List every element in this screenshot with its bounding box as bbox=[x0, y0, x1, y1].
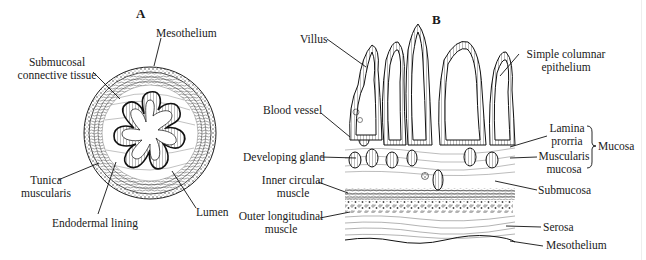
label-mesothelium-a: Mesothelium bbox=[156, 27, 217, 40]
panel-a-gut-cross-section bbox=[84, 67, 216, 199]
label-inner-circular-muscle: Inner circular muscle bbox=[260, 174, 326, 200]
label-developing-gland: Developing gland bbox=[243, 151, 325, 164]
label-line-2: connective tissue bbox=[16, 69, 98, 82]
panel-label-a: A bbox=[136, 6, 145, 22]
panel-b-intestinal-wall bbox=[345, 24, 515, 243]
label-submucosal-connective-tissue: Submucosal connective tissue bbox=[16, 56, 98, 82]
label-line-1: Tunica bbox=[20, 174, 72, 187]
label-tunica-muscularis: Tunica muscularis bbox=[20, 174, 72, 200]
label-outer-longitudinal-muscle: Outer longitudinal muscle bbox=[236, 210, 326, 236]
figure-canvas: A B Mesothelium Submucosal connective ti… bbox=[0, 0, 646, 260]
label-serosa: Serosa bbox=[543, 221, 574, 234]
label-submucosa: Submucosa bbox=[538, 184, 591, 197]
label-endodermal-lining: Endodermal lining bbox=[52, 217, 138, 230]
label-mesothelium-b: Mesothelium bbox=[546, 239, 607, 252]
label-line-2: muscle bbox=[260, 187, 326, 200]
label-line-2: muscle bbox=[236, 223, 326, 236]
label-line-1: Outer longitudinal bbox=[236, 210, 326, 223]
label-line-1: Lamina bbox=[547, 122, 587, 135]
label-blood-vessel: Blood vessel bbox=[263, 104, 322, 117]
label-lamina-propria: Lamina prorria bbox=[547, 122, 587, 148]
label-line-2: muscularis bbox=[20, 187, 72, 200]
label-muscularis-mucosa: Muscularis mucosa bbox=[536, 150, 592, 176]
label-line-1: Inner circular bbox=[260, 174, 326, 187]
label-line-1: Muscularis bbox=[536, 150, 592, 163]
label-mucosa: Mucosa bbox=[598, 140, 634, 153]
label-simple-columnar-epithelium: Simple columnar epithelium bbox=[521, 48, 611, 74]
label-line-2: prorria bbox=[547, 135, 587, 148]
label-villus: Villus bbox=[300, 33, 327, 46]
label-line-2: mucosa bbox=[536, 163, 592, 176]
right-edge-line bbox=[641, 0, 642, 260]
label-line-1: Simple columnar bbox=[521, 48, 611, 61]
panel-label-b: B bbox=[432, 12, 441, 28]
label-line-1: Submucosal bbox=[16, 56, 98, 69]
label-line-2: epithelium bbox=[521, 61, 611, 74]
label-lumen: Lumen bbox=[196, 206, 229, 219]
